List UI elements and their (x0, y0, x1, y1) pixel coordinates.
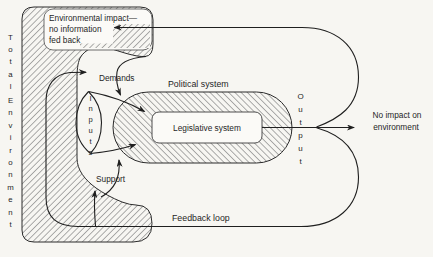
no-impact-line2: environment (373, 122, 419, 132)
output-label: Output (297, 92, 303, 166)
support-label: Support (96, 174, 126, 184)
legislative-system-label: Legislative system (173, 123, 241, 133)
no-impact-label: No impact on environment (373, 110, 422, 132)
diagram-canvas: Environmental impact— no information fed… (0, 0, 433, 257)
systems-model-diagram: Environmental impact— no information fed… (0, 0, 433, 257)
total-vertical-text: Total (8, 33, 13, 91)
environment-vertical-text: Environment (7, 96, 14, 229)
total-environment-label: Total Environment (7, 33, 14, 229)
demands-label: Demands (99, 73, 135, 83)
no-impact-line1: No impact on (373, 110, 422, 120)
political-system-label: Political system (168, 79, 229, 89)
impact-note-line3: fed back (49, 35, 81, 45)
impact-note-line2: no information (49, 24, 102, 34)
impact-note-line1: Environmental impact— (49, 13, 138, 23)
feedback-loop-label: Feedback loop (172, 213, 230, 223)
inputs-label: Inputs (88, 94, 92, 157)
